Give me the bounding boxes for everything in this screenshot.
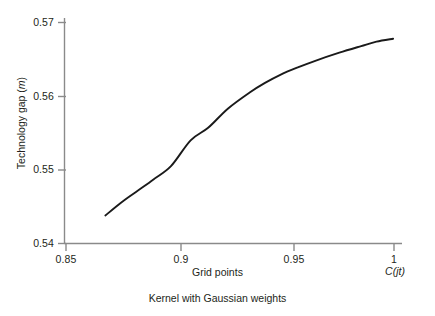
y-axis-title-suffix: ) — [15, 77, 27, 81]
x-axis-end-annotation: C(jt) — [365, 265, 425, 277]
y-axis-title-text: Technology gap ( — [15, 89, 27, 169]
y-tick-label-057: 0.57 — [6, 16, 54, 28]
x-axis-end-annotation-prefix: C( — [385, 265, 396, 277]
x-tick-label-085: 0.85 — [41, 253, 91, 265]
y-tick-label-056: 0.56 — [6, 90, 54, 102]
y-tick-label-055: 0.55 — [6, 163, 54, 175]
x-tick-marks — [66, 244, 394, 252]
data-curve — [105, 39, 393, 216]
x-axis-end-annotation-suffix: ) — [401, 265, 405, 277]
chart-figure: 0.57 0.56 0.55 0.54 0.85 0.9 0.95 1 Tech… — [0, 0, 435, 316]
y-axis-title: Technology gap (m) — [15, 48, 27, 198]
y-tick-label-054: 0.54 — [6, 237, 54, 249]
x-tick-label-095: 0.95 — [269, 253, 319, 265]
figure-caption: Kernel with Gaussian weights — [0, 292, 435, 304]
x-tick-label-1: 1 — [374, 253, 414, 265]
y-axis-title-symbol: m — [15, 80, 27, 89]
x-tick-label-09: 0.9 — [159, 253, 203, 265]
